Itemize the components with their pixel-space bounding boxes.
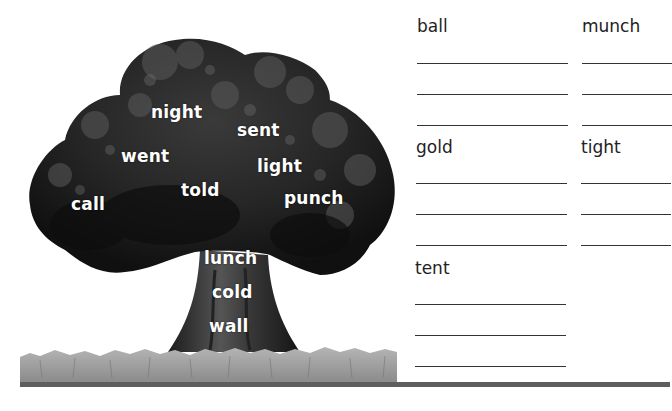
word-group-tight: tight xyxy=(581,137,671,252)
word-label: munch xyxy=(582,16,640,36)
word-label: ball xyxy=(417,16,448,36)
tree-word: cold xyxy=(212,284,253,301)
writing-line[interactable] xyxy=(581,214,671,215)
tree-word: told xyxy=(181,182,220,199)
ground-divider xyxy=(20,382,670,387)
word-tree-illustration: night sent went light told call punch lu… xyxy=(0,0,400,390)
word-label: gold xyxy=(416,137,453,157)
word-group-munch: munch xyxy=(582,16,672,131)
writing-line[interactable] xyxy=(416,245,567,246)
tree-word: lunch xyxy=(204,250,257,267)
writing-line[interactable] xyxy=(416,183,567,184)
writing-line[interactable] xyxy=(582,94,672,95)
writing-line[interactable] xyxy=(582,125,672,126)
tree-word: call xyxy=(71,196,105,213)
writing-line[interactable] xyxy=(415,304,566,305)
word-label: tight xyxy=(581,137,621,157)
writing-line[interactable] xyxy=(415,366,566,367)
tree-word: went xyxy=(121,148,169,165)
word-group-gold: gold xyxy=(416,137,567,252)
writing-line[interactable] xyxy=(417,125,568,126)
word-group-tent: tent xyxy=(415,258,566,373)
writing-line[interactable] xyxy=(416,214,567,215)
word-group-ball: ball xyxy=(417,16,568,131)
writing-line[interactable] xyxy=(417,63,568,64)
writing-line[interactable] xyxy=(581,183,671,184)
tree-word: punch xyxy=(284,190,344,207)
writing-line[interactable] xyxy=(417,94,568,95)
tree-word: light xyxy=(257,158,302,175)
writing-line[interactable] xyxy=(582,63,672,64)
tree-word: wall xyxy=(209,318,249,335)
word-label: tent xyxy=(415,258,450,278)
tree-word: night xyxy=(151,104,202,121)
tree-word: sent xyxy=(237,122,280,139)
writing-line[interactable] xyxy=(415,335,566,336)
writing-line[interactable] xyxy=(581,245,671,246)
